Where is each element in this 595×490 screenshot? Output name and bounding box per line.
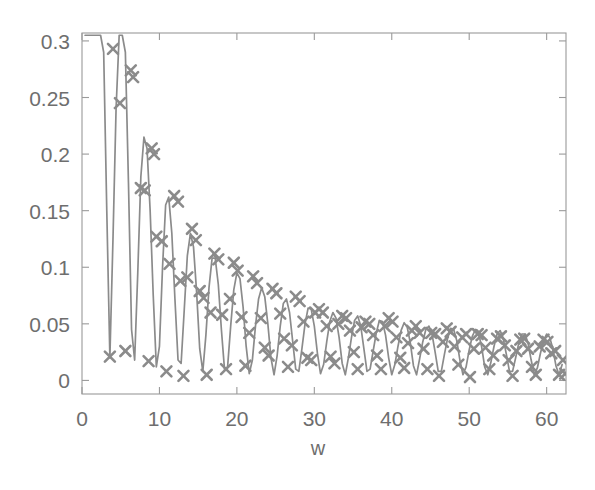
- data-marker: [157, 236, 167, 246]
- data-marker: [178, 371, 188, 381]
- data-marker: [322, 321, 332, 331]
- data-marker: [461, 329, 471, 339]
- data-marker: [287, 340, 297, 350]
- data-marker: [419, 344, 429, 354]
- y-tick-label: 0.15: [29, 200, 70, 223]
- x-tick-label: 50: [458, 407, 481, 430]
- data-marker: [271, 288, 281, 298]
- x-tick-label: 40: [380, 407, 403, 430]
- data-marker: [353, 364, 363, 374]
- data-marker: [237, 312, 247, 322]
- x-tick-label: 30: [303, 407, 326, 430]
- y-tick-label: 0.3: [41, 30, 70, 53]
- y-tick-label: 0: [58, 369, 70, 392]
- data-marker: [376, 364, 386, 374]
- data-marker: [434, 371, 444, 381]
- data-marker: [306, 355, 316, 365]
- data-marker: [349, 347, 359, 357]
- data-marker: [403, 338, 413, 348]
- data-marker: [469, 344, 479, 354]
- data-marker: [120, 346, 130, 356]
- x-tick-label: 10: [148, 407, 171, 430]
- data-marker: [221, 364, 231, 374]
- y-tick-label: 0.25: [29, 87, 70, 110]
- y-axis-tick-labels: 00.050.10.150.20.250.3: [29, 30, 70, 392]
- data-marker: [372, 351, 382, 361]
- figure-container: 0102030405060 00.050.10.150.20.250.3 w: [0, 0, 595, 490]
- data-marker: [422, 364, 432, 374]
- data-marker: [256, 313, 266, 323]
- data-marker: [453, 360, 463, 370]
- x-tick-label: 0: [76, 407, 88, 430]
- x-tick-label: 20: [225, 407, 248, 430]
- data-marker: [295, 296, 305, 306]
- chart-canvas: 0102030405060 00.050.10.150.20.250.3 w: [0, 0, 595, 490]
- x-tick-label: 60: [535, 407, 558, 430]
- data-marker: [508, 371, 518, 381]
- data-marker: [283, 362, 293, 372]
- data-marker: [318, 308, 328, 318]
- y-tick-label: 0.2: [41, 143, 70, 166]
- data-marker: [202, 370, 212, 380]
- x-axis-title: w: [310, 437, 326, 459]
- data-marker: [298, 317, 308, 327]
- data-marker: [217, 310, 227, 320]
- data-marker: [275, 309, 285, 319]
- data-marker: [161, 366, 171, 376]
- x-axis-tick-labels: 0102030405060: [76, 407, 558, 430]
- y-tick-label: 0.05: [29, 313, 70, 336]
- y-tick-label: 0.1: [41, 256, 70, 279]
- data-marker: [399, 363, 409, 373]
- data-marker: [187, 224, 197, 234]
- data-marker: [108, 44, 118, 54]
- data-marker: [144, 356, 154, 366]
- data-marker: [465, 372, 475, 382]
